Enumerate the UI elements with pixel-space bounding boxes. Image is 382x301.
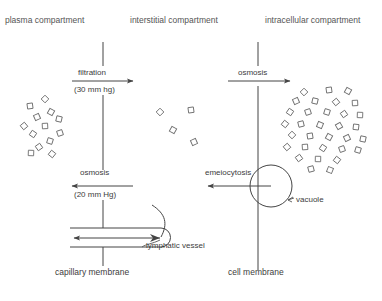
label-osmosis-cell: osmosis (238, 69, 267, 77)
solute-particle (169, 126, 176, 133)
solute-particle (292, 97, 299, 104)
diagram-canvas: plasma compartment interstitial compartm… (0, 0, 382, 301)
lymphatic-vessel-curve (152, 205, 165, 237)
solute-particle (188, 107, 194, 113)
solute-particle (288, 131, 296, 139)
solute-particle (324, 109, 331, 116)
header-interstitial-compartment: interstitial compartment (130, 16, 218, 25)
solute-particle (360, 136, 366, 142)
solute-particle (190, 138, 197, 145)
solute-particle (295, 154, 303, 162)
solute-particle (312, 98, 318, 104)
solute-particle (56, 116, 62, 122)
solute-particle (333, 156, 341, 164)
solute-particle (156, 108, 164, 116)
solute-particle (325, 133, 332, 140)
header-plasma-compartment: plasma compartment (5, 16, 84, 25)
solute-particle (343, 134, 350, 141)
solute-particle (326, 166, 333, 173)
solute-particle (326, 87, 332, 93)
interstitial-solutes (156, 107, 197, 146)
solute-particle (307, 133, 313, 139)
value-filtration-pressure: (30 mm hg) (74, 86, 115, 94)
label-cell-membrane: cell membrane (228, 268, 284, 277)
label-capillary-membrane: capillary membrane (55, 268, 129, 277)
solute-particle (339, 146, 346, 153)
label-filtration: filtration (78, 69, 106, 77)
solute-particle (332, 98, 340, 106)
solute-particle (357, 112, 363, 118)
solute-particle (298, 121, 305, 128)
solute-particle (319, 144, 326, 151)
label-osmosis-capillary: osmosis (80, 169, 109, 177)
solute-particle (300, 88, 308, 96)
solute-particle (33, 113, 40, 120)
label-emeiocytosis: emeiocytosis (205, 169, 251, 177)
solute-particle (355, 147, 362, 154)
solute-particle (305, 109, 312, 116)
solute-particle (47, 138, 54, 145)
solute-particle (47, 108, 54, 115)
solute-particle (308, 166, 315, 173)
solute-particle (41, 95, 49, 103)
solute-particle (335, 122, 342, 129)
solute-particle (302, 144, 308, 150)
solute-particle (281, 120, 289, 128)
solute-particle (48, 150, 56, 158)
solute-particle (283, 143, 291, 151)
solute-particle (316, 121, 323, 128)
solute-particle (340, 110, 348, 118)
value-osmosis-capillary-pressure: (20 mm Hg) (74, 191, 116, 199)
solute-particle (57, 130, 64, 137)
solute-particle (28, 150, 34, 156)
solute-particle (42, 123, 48, 129)
solute-particle (29, 130, 36, 137)
solute-particle (20, 122, 28, 130)
solute-particle (286, 108, 293, 115)
intracellular-solutes (281, 87, 366, 174)
solute-particle (315, 156, 320, 161)
solute-particle (352, 100, 358, 106)
label-lymphatic-vessel: lymphatic vessel (146, 242, 205, 250)
plasma-solutes (20, 95, 63, 158)
diagram-graphics (0, 0, 382, 301)
solute-particle (353, 124, 359, 130)
solute-particle (27, 103, 33, 109)
header-intracellular-compartment: intracellular compartment (265, 16, 360, 25)
solute-particle (35, 143, 43, 151)
label-vacuole: vacuole (296, 196, 324, 204)
solute-particle (344, 87, 351, 94)
